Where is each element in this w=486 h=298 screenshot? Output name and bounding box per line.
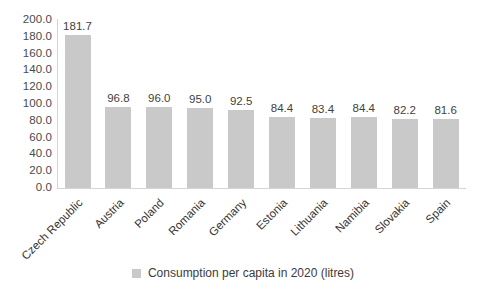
- y-axis-tick-label: 20.0: [4, 165, 52, 177]
- bar[interactable]: [105, 107, 131, 188]
- x-axis-label-slot: Spain: [425, 191, 466, 261]
- y-axis-tick-label: 140.0: [4, 64, 52, 76]
- bar[interactable]: [65, 35, 91, 188]
- bar-value-label: 82.2: [384, 104, 425, 116]
- chart-legend: Consumption per capita in 2020 (litres): [0, 266, 486, 280]
- bar-slot: 96.0: [139, 20, 180, 188]
- bar[interactable]: [433, 119, 459, 188]
- y-axis-tick-label: 160.0: [4, 48, 52, 60]
- legend-entry-label: Consumption per capita in 2020 (litres): [148, 266, 354, 280]
- bar-slot: 95.0: [180, 20, 221, 188]
- bar[interactable]: [146, 107, 172, 188]
- bar-slot: 83.4: [302, 20, 343, 188]
- legend-swatch-icon: [132, 269, 141, 278]
- y-axis-tick-label: 100.0: [4, 98, 52, 110]
- bar-value-label: 95.0: [180, 93, 221, 105]
- y-axis-tick-label: 200.0: [4, 14, 52, 26]
- bar-slot: 82.2: [384, 20, 425, 188]
- x-axis-label-slot: Austria: [98, 191, 139, 261]
- bar[interactable]: [310, 118, 336, 188]
- y-axis-tick-label: 80.0: [4, 115, 52, 127]
- bar-value-label: 92.5: [221, 95, 262, 107]
- bar[interactable]: [269, 117, 295, 188]
- bar-value-label: 84.4: [343, 102, 384, 114]
- bar-value-label: 81.6: [425, 104, 466, 116]
- bar-slot: 84.4: [343, 20, 384, 188]
- bar-slot: 96.8: [98, 20, 139, 188]
- bar-value-label: 96.0: [139, 92, 180, 104]
- y-axis-tick-label: 60.0: [4, 132, 52, 144]
- bar-slot: 92.5: [221, 20, 262, 188]
- bar[interactable]: [228, 110, 254, 188]
- x-axis-category-labels: Czech RepublicAustriaPolandRomaniaGerman…: [57, 191, 466, 261]
- bar[interactable]: [351, 117, 377, 188]
- bar-slot: 81.6: [425, 20, 466, 188]
- y-axis-tick-label: 40.0: [4, 148, 52, 160]
- x-axis-line: [57, 188, 466, 189]
- x-axis-label-slot: Czech Republic: [57, 191, 98, 261]
- bar-slot: 84.4: [262, 20, 303, 188]
- y-axis-tick-label: 180.0: [4, 31, 52, 43]
- bar[interactable]: [187, 108, 213, 188]
- bar-slot: 181.7: [57, 20, 98, 188]
- bar-value-label: 83.4: [302, 103, 343, 115]
- bar-chart: 200.0180.0160.0140.0120.0100.080.060.040…: [0, 0, 486, 298]
- plot-area: 181.796.896.095.092.584.483.484.482.281.…: [57, 20, 466, 188]
- bar-value-label: 84.4: [262, 102, 303, 114]
- x-axis-category-label[interactable]: Spain: [423, 195, 454, 226]
- y-axis-tick-label: 120.0: [4, 81, 52, 93]
- bar-value-label: 96.8: [98, 92, 139, 104]
- y-axis-tick-label: 0.0: [4, 182, 52, 194]
- bar-value-label: 181.7: [57, 20, 98, 32]
- x-axis-label-slot: Slovakia: [384, 191, 425, 261]
- bar[interactable]: [392, 119, 418, 188]
